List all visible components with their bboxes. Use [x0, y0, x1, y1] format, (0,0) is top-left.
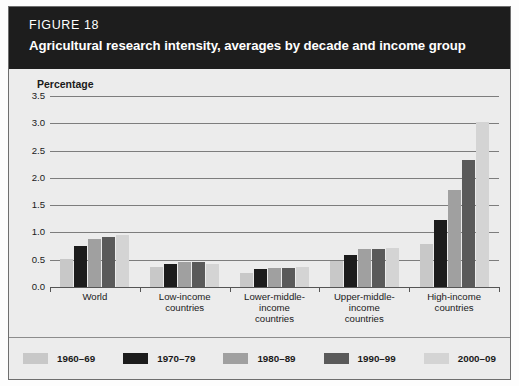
bar-group [319, 96, 409, 287]
legend-item[interactable]: 1970–79 [123, 353, 195, 364]
bar[interactable] [60, 259, 73, 287]
legend-swatch-icon [123, 353, 148, 364]
category-label: World [50, 291, 140, 331]
bar[interactable] [448, 190, 461, 287]
y-axis-title: Percentage [37, 78, 94, 90]
bar-set [140, 96, 230, 287]
category-label-line: Upper-middle- [321, 291, 407, 302]
y-axis-tick-label: 2.5 [5, 145, 45, 156]
y-axis-tick-label: 1.0 [5, 226, 45, 237]
category-label-line: income [321, 302, 407, 313]
bar[interactable] [268, 268, 281, 287]
y-axis-tick-label: 1.5 [5, 199, 45, 210]
legend-swatch-icon [223, 353, 248, 364]
bar[interactable] [150, 267, 163, 287]
category-label: Low-incomecountries [140, 291, 230, 331]
legend-item[interactable]: 1980–89 [223, 353, 295, 364]
bar[interactable] [240, 273, 253, 287]
bar-set [230, 96, 320, 287]
category-label-line: countries [232, 313, 318, 324]
category-label-line: Lower-middle- [232, 291, 318, 302]
bar[interactable] [386, 248, 399, 287]
x-axis-line [50, 287, 499, 288]
bar[interactable] [102, 237, 115, 287]
legend-swatch-icon [23, 353, 48, 364]
legend-swatch-icon [424, 353, 449, 364]
bar[interactable] [330, 261, 343, 287]
bar[interactable] [192, 262, 205, 287]
bar[interactable] [462, 160, 475, 287]
bar[interactable] [420, 244, 433, 287]
bar-group [409, 96, 499, 287]
y-axis-tick-label: 3.0 [5, 117, 45, 128]
chart-legend: 1960–691970–791980–891990–992000–09 [9, 337, 510, 379]
bar-set [409, 96, 499, 287]
category-label-line: countries [321, 313, 407, 324]
legend-swatch-icon [324, 353, 349, 364]
bar-group [140, 96, 230, 287]
bar[interactable] [164, 264, 177, 287]
x-axis-tick [499, 287, 500, 292]
bar[interactable] [282, 268, 295, 287]
bar[interactable] [88, 239, 101, 287]
legend-item[interactable]: 1990–99 [324, 353, 396, 364]
y-axis-tick-label: 0.5 [5, 254, 45, 265]
legend-label: 1980–89 [257, 353, 295, 364]
bar-groups [50, 96, 499, 287]
category-label-line: World [52, 291, 138, 302]
bar-group [50, 96, 140, 287]
bar[interactable] [358, 249, 371, 287]
category-label: Upper-middle-incomecountries [319, 291, 409, 331]
legend-label: 1960–69 [57, 353, 95, 364]
bar-set [50, 96, 140, 287]
category-labels: WorldLow-incomecountriesLower-middle-inc… [50, 291, 499, 331]
y-axis-tick-label: 3.5 [5, 90, 45, 101]
plot-canvas: 0.00.51.01.52.02.53.03.5 [50, 96, 499, 287]
figure-number: FIGURE 18 [29, 18, 99, 32]
figure-container: FIGURE 18 Agricultural research intensit… [0, 0, 519, 386]
figure-header: FIGURE 18 Agricultural research intensit… [9, 7, 510, 69]
bar[interactable] [178, 262, 191, 287]
legend-label: 2000–09 [458, 353, 496, 364]
bar[interactable] [344, 255, 357, 287]
bar[interactable] [74, 246, 87, 287]
figure-title: Agricultural research intensity, average… [29, 38, 496, 54]
bar-group [230, 96, 320, 287]
category-label-line: Low-income [142, 291, 228, 302]
bar[interactable] [434, 220, 447, 287]
bar[interactable] [372, 249, 385, 287]
category-label-line: countries [142, 302, 228, 313]
plot-area: Percentage 0.00.51.01.52.02.53.03.5 Worl… [9, 69, 510, 332]
bar[interactable] [116, 235, 129, 287]
legend-item[interactable]: 2000–09 [424, 353, 496, 364]
legend-label: 1990–99 [358, 353, 396, 364]
legend-item[interactable]: 1960–69 [23, 353, 95, 364]
bar-set [319, 96, 409, 287]
category-label-line: countries [411, 302, 497, 313]
bar[interactable] [296, 267, 309, 287]
category-label-line: income [232, 302, 318, 313]
legend-label: 1970–79 [157, 353, 195, 364]
category-label: High-incomecountries [409, 291, 499, 331]
category-label: Lower-middle-incomecountries [230, 291, 320, 331]
bar[interactable] [476, 122, 489, 287]
y-axis-tick-label: 0.0 [5, 281, 45, 292]
category-label-line: High-income [411, 291, 497, 302]
y-axis-tick-label: 2.0 [5, 172, 45, 183]
bar[interactable] [206, 264, 219, 287]
bar[interactable] [254, 269, 267, 287]
